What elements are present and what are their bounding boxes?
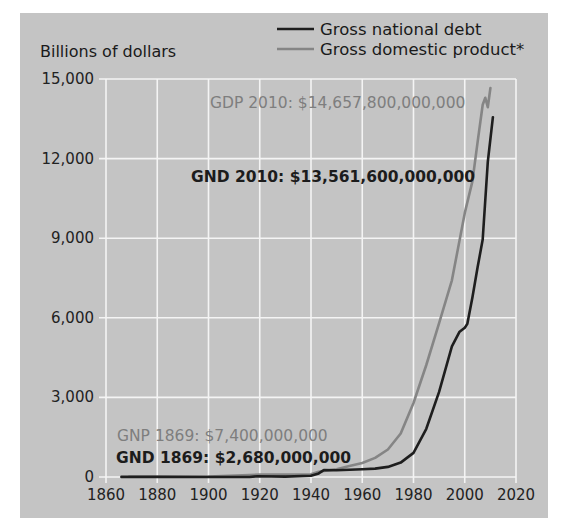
x-axis-tick-labels: 186018801900192019401960198020002020: [87, 486, 535, 504]
series-lines: [121, 88, 493, 477]
x-tick-label: 1980: [394, 486, 432, 504]
y-tick-label: 0: [84, 468, 94, 486]
x-tick-label: 1960: [343, 486, 381, 504]
y-tick-label: 9,000: [51, 229, 94, 247]
annotation-gnd-1869: GND 1869: $2,680,000,000: [116, 449, 351, 467]
legend: Gross national debt Gross domestic produ…: [277, 20, 524, 59]
annotation-gdp-2010: GDP 2010: $14,657,800,000,000: [210, 94, 465, 112]
y-axis-title: Billions of dollars: [40, 42, 176, 61]
annotation-gnp-1869: GNP 1869: $7,400,000,000: [117, 427, 328, 445]
y-axis-tick-labels: 03,0006,0009,00012,00015,000: [42, 70, 95, 486]
series-line-gdp: [129, 88, 490, 477]
x-tick-label: 1940: [292, 486, 330, 504]
y-tick-label: 15,000: [42, 70, 95, 88]
y-tick-label: 12,000: [42, 150, 95, 168]
legend-debt-label: Gross national debt: [320, 20, 482, 39]
y-tick-label: 6,000: [51, 309, 94, 327]
x-tick-label: 2020: [497, 486, 535, 504]
x-tick-label: 1880: [138, 486, 176, 504]
annotation-gnd-2010: GND 2010: $13,561,600,000,000: [191, 168, 475, 186]
legend-gdp-label: Gross domestic product*: [320, 40, 524, 59]
x-tick-label: 1860: [87, 486, 125, 504]
y-tick-label: 3,000: [51, 388, 94, 406]
x-tick-label: 2000: [446, 486, 484, 504]
grid-lines: [99, 79, 516, 483]
line-chart: 03,0006,0009,00012,00015,000 18601880190…: [0, 0, 568, 522]
x-tick-label: 1900: [189, 486, 227, 504]
x-tick-label: 1920: [241, 486, 279, 504]
